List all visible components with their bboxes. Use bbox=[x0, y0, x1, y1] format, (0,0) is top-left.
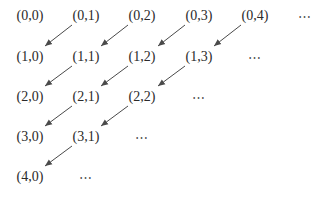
pair-node: (1,2) bbox=[129, 50, 156, 64]
arrow-icon bbox=[101, 66, 128, 86]
pair-node: (2,1) bbox=[73, 90, 100, 104]
pair-node: (2,2) bbox=[129, 90, 156, 104]
pair-node: (2,0) bbox=[17, 90, 44, 104]
ellipsis-label: ⋯ bbox=[248, 51, 262, 64]
pair-node: (4,0) bbox=[17, 170, 44, 184]
arrow-layer bbox=[0, 0, 323, 201]
arrow-icon bbox=[101, 25, 128, 46]
pair-node: (0,2) bbox=[129, 9, 156, 23]
pair-node: (1,1) bbox=[73, 50, 100, 64]
pair-node: (0,0) bbox=[17, 9, 44, 23]
ellipsis-label: ⋯ bbox=[298, 10, 312, 23]
arrow-icon bbox=[45, 25, 72, 46]
arrow-icon bbox=[45, 146, 72, 166]
arrow-icon bbox=[45, 66, 72, 86]
arrow-icon bbox=[45, 106, 72, 126]
arrow-icon bbox=[158, 66, 185, 86]
arrow-icon bbox=[214, 25, 241, 46]
ellipsis-label: ⋯ bbox=[192, 91, 206, 104]
arrow-icon bbox=[158, 25, 185, 46]
pair-node: (3,0) bbox=[17, 130, 44, 144]
pair-node: (0,4) bbox=[242, 9, 269, 23]
pair-node: (3,1) bbox=[73, 130, 100, 144]
ellipsis-label: ⋯ bbox=[79, 171, 93, 184]
arrow-icon bbox=[101, 106, 128, 126]
pair-node: (1,0) bbox=[17, 50, 44, 64]
ellipsis-label: ⋯ bbox=[135, 131, 149, 144]
pair-node: (1,3) bbox=[186, 50, 213, 64]
pair-node: (0,3) bbox=[186, 9, 213, 23]
pair-node: (0,1) bbox=[73, 9, 100, 23]
